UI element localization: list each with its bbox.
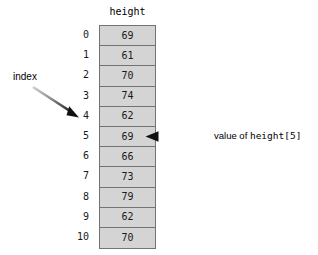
index-value: 1	[83, 50, 89, 60]
value-annotation-code: height[5]	[250, 130, 301, 141]
array-cell-value: 69	[121, 31, 133, 41]
index-cell: 1	[60, 45, 91, 65]
array-cell: 61	[100, 46, 155, 66]
array-cell-value: 69	[121, 132, 133, 142]
array-cell: 79	[100, 188, 155, 208]
index-cell: 0	[60, 25, 91, 45]
array-diagram: height 0 1 2 3 4 5 6 7 8 9 10 69 61 70 7…	[0, 0, 318, 255]
array-cell: 62	[100, 107, 155, 127]
index-cell: 9	[60, 207, 91, 227]
index-cell: 7	[60, 166, 91, 186]
array-cell: 74	[100, 87, 155, 107]
array-cell-value: 66	[121, 152, 133, 162]
value-annotation-prefix: value of	[214, 130, 250, 141]
array-cell-highlighted: 69	[100, 127, 155, 147]
index-value: 5	[83, 131, 89, 141]
array-cell: 62	[100, 208, 155, 228]
array-cell: 69	[100, 26, 155, 46]
index-value: 0	[83, 30, 89, 40]
index-value: 2	[83, 70, 89, 80]
index-cell: 5	[60, 126, 91, 146]
array-cell-value: 62	[121, 212, 133, 222]
index-value: 7	[83, 171, 89, 181]
index-value: 10	[77, 232, 89, 242]
index-value: 6	[83, 151, 89, 161]
index-cell: 4	[60, 106, 91, 126]
array-name-label: height	[99, 6, 156, 17]
index-value: 4	[83, 111, 89, 121]
array-cell-value: 73	[121, 172, 133, 182]
index-cell: 10	[60, 227, 91, 247]
array-cell-value: 74	[121, 91, 133, 101]
array-cell: 66	[100, 147, 155, 167]
array-cell: 70	[100, 228, 155, 248]
index-cell: 6	[60, 146, 91, 166]
annotation-arrows	[0, 0, 318, 255]
array-cell-value: 62	[121, 111, 133, 121]
array-cell-value: 79	[121, 192, 133, 202]
index-value: 3	[83, 91, 89, 101]
array-container: 69 61 70 74 62 69 66 73 79 62 70	[99, 25, 156, 249]
index-value: 8	[83, 192, 89, 202]
index-annotation-label: index	[13, 71, 37, 82]
index-value: 9	[83, 212, 89, 222]
value-annotation-label: value of height[5]	[214, 131, 301, 141]
array-cell: 70	[100, 66, 155, 86]
array-cell: 73	[100, 167, 155, 187]
index-cell: 2	[60, 65, 91, 85]
array-cell-value: 61	[121, 51, 133, 61]
index-cell: 3	[60, 86, 91, 106]
index-cell: 8	[60, 187, 91, 207]
array-cell-value: 70	[121, 233, 133, 243]
index-column: 0 1 2 3 4 5 6 7 8 9 10	[60, 25, 91, 247]
array-cell-value: 70	[121, 71, 133, 81]
